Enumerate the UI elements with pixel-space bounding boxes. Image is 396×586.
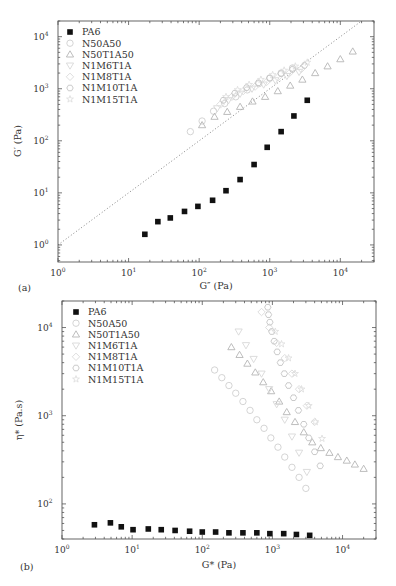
- data-point: [262, 93, 269, 99]
- data-point: [281, 531, 287, 537]
- legend-marker: [72, 331, 79, 337]
- legend-marker: [67, 96, 74, 103]
- panel-a-label: (a): [18, 282, 31, 293]
- data-point: [281, 417, 288, 423]
- data-point: [317, 444, 324, 450]
- data-point: [252, 369, 259, 375]
- data-point: [277, 360, 283, 366]
- y-tick-label: 102: [37, 497, 52, 509]
- data-point: [334, 453, 341, 459]
- legend-marker: [67, 85, 73, 91]
- data-point: [283, 408, 290, 414]
- data-point: [295, 450, 302, 456]
- legend-label: N1M10T1A: [82, 82, 138, 93]
- legend-marker: [66, 51, 73, 57]
- data-point: [235, 329, 242, 335]
- data-point: [291, 113, 297, 119]
- legend-marker: [67, 29, 73, 35]
- legend-marker: [73, 320, 79, 326]
- x-tick-label: 103: [262, 266, 277, 278]
- data-point: [247, 407, 253, 413]
- data-point: [211, 367, 217, 373]
- data-point: [260, 379, 267, 385]
- data-point: [187, 128, 193, 134]
- data-point: [268, 388, 275, 394]
- y-tick-label: 103: [33, 82, 48, 94]
- data-point: [288, 434, 295, 440]
- data-point: [268, 435, 274, 441]
- x-tick-label: 103: [265, 543, 280, 555]
- data-point: [158, 527, 164, 533]
- legend-label: N1M10T1A: [88, 362, 144, 373]
- data-point: [213, 529, 219, 535]
- panel-b-y-axis-label: η* (Pa.s): [13, 400, 24, 440]
- data-point: [360, 465, 367, 471]
- data-point: [240, 530, 246, 536]
- data-point: [226, 382, 232, 388]
- data-point: [343, 457, 350, 463]
- legend-marker: [72, 353, 79, 360]
- legend-marker: [72, 343, 79, 349]
- legend-label: N50T1A50: [82, 49, 134, 60]
- data-point: [199, 529, 205, 535]
- data-point: [281, 371, 287, 377]
- legend-item-n50t1a50: N50T1A50: [72, 329, 139, 340]
- data-point: [337, 56, 344, 62]
- data-point: [275, 444, 281, 450]
- legend-item-n1m10t1a: N1M10T1A: [67, 82, 138, 93]
- legend-label: N1M6T1A: [82, 60, 132, 71]
- legend-item-n1m8t1a: N1M8T1A: [66, 71, 131, 82]
- data-point: [223, 188, 229, 194]
- data-point: [195, 204, 201, 210]
- data-point: [108, 520, 114, 526]
- data-point: [296, 474, 302, 480]
- data-point: [294, 532, 300, 538]
- data-point: [250, 356, 257, 362]
- data-point: [351, 461, 358, 467]
- data-point: [301, 63, 307, 69]
- data-point: [261, 425, 267, 431]
- data-point: [224, 108, 231, 114]
- x-tick-label: 104: [333, 266, 348, 278]
- series-n1m10t1a: [265, 304, 324, 468]
- legend-item-n1m15t1a: N1M15T1A: [67, 94, 138, 105]
- data-point: [242, 343, 249, 349]
- panel-b-legend: PA6N50A50N50T1A50N1M6T1AN1M8T1AN1M10T1AN…: [72, 306, 143, 384]
- legend-item-n50a50: N50A50: [67, 38, 122, 49]
- data-point: [317, 463, 323, 469]
- data-point: [130, 527, 136, 533]
- legend-item-n1m6t1a: N1M6T1A: [66, 60, 131, 71]
- data-point: [301, 422, 307, 428]
- data-point: [291, 418, 298, 424]
- data-point: [312, 69, 319, 75]
- data-point: [319, 435, 326, 442]
- data-point: [236, 351, 243, 357]
- legend-label: N50T1A50: [88, 329, 140, 340]
- series-n50t1a50: [198, 48, 356, 128]
- data-point: [289, 464, 295, 470]
- legend-label: N1M6T1A: [88, 340, 138, 351]
- data-point: [233, 390, 239, 396]
- data-point: [210, 197, 216, 203]
- data-point: [228, 344, 235, 350]
- figure: 100101102103104 100101102103104 G″ (Pa) …: [0, 0, 396, 586]
- panel-a-x-axis-label: G″ (Pa): [199, 280, 232, 291]
- legend-marker: [67, 40, 73, 46]
- legend-item-n1m15t1a: N1M15T1A: [73, 374, 144, 385]
- panel-a-legend: PA6N50A50N50T1A50N1M6T1AN1M8T1AN1M10T1AN…: [66, 26, 137, 104]
- x-tick-label: 102: [195, 543, 210, 555]
- data-point: [167, 215, 173, 221]
- x-tick-label: 100: [54, 543, 69, 555]
- x-tick-label: 101: [121, 266, 136, 278]
- legend-label: N1M15T1A: [82, 94, 138, 105]
- data-point: [226, 530, 232, 536]
- data-point: [237, 177, 243, 183]
- panel-b-x-axis-label: G* (Pa): [202, 559, 236, 570]
- series-n1m8t1a: [258, 308, 318, 425]
- y-tick-label: 104: [37, 321, 52, 333]
- legend-label: N1M15T1A: [88, 374, 144, 385]
- y-tick-label: 104: [33, 30, 48, 42]
- data-point: [155, 219, 161, 225]
- data-point: [265, 304, 271, 310]
- data-point: [182, 209, 188, 215]
